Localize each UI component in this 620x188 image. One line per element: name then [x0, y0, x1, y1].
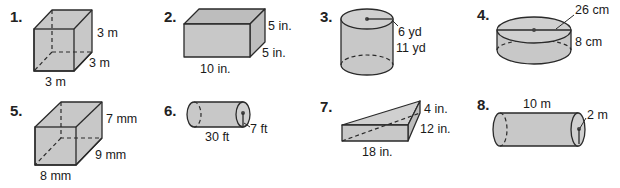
problem-3-cylinder: 3. 6 yd 11 yd	[320, 8, 426, 75]
width-label: 3 m	[45, 75, 66, 89]
cylinder-body	[493, 113, 578, 146]
problem-number: 8.	[477, 96, 490, 113]
height-label: 11 yd	[396, 41, 426, 55]
width-label: 10 in.	[200, 62, 231, 76]
cylinder-body	[187, 102, 243, 127]
problem-2-prism: 2. 5 in. 5 in. 10 in.	[164, 8, 292, 76]
top-face	[342, 101, 420, 125]
radius-label: 7 ft	[250, 122, 268, 136]
radius-label: 6 yd	[398, 25, 422, 39]
center-point	[532, 28, 536, 32]
side-a-label: 4 in.	[424, 102, 448, 116]
length-label: 30 ft	[205, 130, 230, 144]
problem-4-cylinder: 4. 26 cm 8 cm	[477, 3, 609, 64]
problem-6-cylinder: 6. 7 ft 30 ft	[164, 102, 268, 144]
depth-label: 9 mm	[95, 148, 126, 162]
side-b-label: 12 in.	[420, 122, 451, 136]
height-label: 8 cm	[575, 35, 602, 49]
problem-number: 2.	[164, 8, 177, 25]
height-label: 5 in.	[268, 19, 292, 33]
front-face	[342, 125, 408, 141]
problem-number: 3.	[320, 8, 333, 25]
problem-5-prism: 5. 7 mm 9 mm 8 mm	[10, 102, 137, 183]
problem-number: 1.	[10, 8, 23, 25]
radius-label: 2 m	[587, 108, 608, 122]
depth-label: 3 m	[89, 56, 110, 70]
problem-number: 7.	[320, 98, 333, 115]
front-face	[184, 24, 250, 57]
problem-7-triangular-prism: 7. 4 in. 12 in. 18 in.	[320, 98, 451, 159]
depth-label: 5 in.	[262, 46, 286, 60]
problem-number: 4.	[477, 6, 490, 23]
width-label: 8 mm	[40, 169, 71, 183]
height-label: 3 m	[97, 26, 118, 40]
length-label: 10 m	[523, 97, 551, 111]
problem-1-cube: 1. 3 m 3 m 3 m	[10, 8, 118, 89]
diameter-label: 26 cm	[575, 3, 609, 17]
length-label: 18 in.	[362, 145, 393, 159]
problem-8-cylinder: 8. 2 m 10 m	[477, 96, 608, 146]
problem-number: 6.	[164, 102, 177, 119]
height-label: 7 mm	[106, 112, 137, 126]
problem-number: 5.	[10, 102, 23, 119]
